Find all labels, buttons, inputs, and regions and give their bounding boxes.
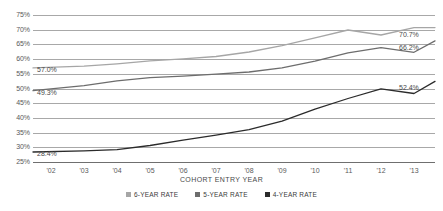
x-axis-tick-label: '10 — [303, 167, 327, 174]
x-axis-tick-label: '05 — [138, 167, 162, 174]
data-label: 66.2% — [399, 44, 419, 51]
legend-swatch-icon — [126, 192, 131, 197]
legend-item-label: 6-YEAR RATE — [134, 191, 178, 198]
line-chart: 75%70%65%60%55%50%45%40%35%30%25% '02'03… — [0, 0, 443, 211]
y-axis-tick-label: 70% — [0, 26, 30, 33]
x-axis-title: COHORT ENTRY YEAR — [0, 176, 443, 183]
data-label: 57.0% — [37, 66, 57, 73]
x-axis-tick-label: '02 — [39, 167, 63, 174]
legend-item[interactable]: 4-YEAR RATE — [265, 191, 317, 198]
data-label: 70.7% — [399, 31, 419, 38]
x-axis-tick-label: '11 — [336, 167, 360, 174]
y-axis-tick-label: 40% — [0, 114, 30, 121]
x-axis-tick-label: '03 — [72, 167, 96, 174]
x-axis-tick-label: '09 — [270, 167, 294, 174]
legend-swatch-icon — [265, 192, 270, 197]
data-label: 28.4% — [37, 150, 57, 157]
legend-swatch-icon — [195, 192, 200, 197]
y-axis-tick-label: 65% — [0, 40, 30, 47]
y-axis-tick-label: 30% — [0, 143, 30, 150]
legend-item-label: 4-YEAR RATE — [273, 191, 317, 198]
gridline — [33, 162, 435, 163]
y-axis-tick-label: 25% — [0, 158, 30, 165]
legend-item[interactable]: 5-YEAR RATE — [195, 191, 247, 198]
data-label: 49.3% — [37, 89, 57, 96]
chart-legend: 6-YEAR RATE5-YEAR RATE4-YEAR RATE — [0, 191, 443, 198]
legend-item-label: 5-YEAR RATE — [203, 191, 247, 198]
x-axis-tick-label: '12 — [369, 167, 393, 174]
x-axis-tick-label: '13 — [402, 167, 426, 174]
y-axis-tick-label: 55% — [0, 70, 30, 77]
y-axis-tick-label: 35% — [0, 129, 30, 136]
y-axis-tick-label: 45% — [0, 99, 30, 106]
series-line — [33, 28, 435, 68]
x-axis-tick-label: '07 — [204, 167, 228, 174]
x-axis-tick-label: '04 — [105, 167, 129, 174]
x-axis-tick-label: '06 — [171, 167, 195, 174]
series-line — [33, 81, 435, 152]
data-label: 52.4% — [399, 84, 419, 91]
x-axis-tick-label: '08 — [237, 167, 261, 174]
plot-area — [33, 15, 435, 162]
y-axis-tick-label: 75% — [0, 11, 30, 18]
series-lines — [33, 15, 435, 162]
y-axis-tick-label: 50% — [0, 85, 30, 92]
legend-item[interactable]: 6-YEAR RATE — [126, 191, 178, 198]
y-axis-tick-label: 60% — [0, 55, 30, 62]
